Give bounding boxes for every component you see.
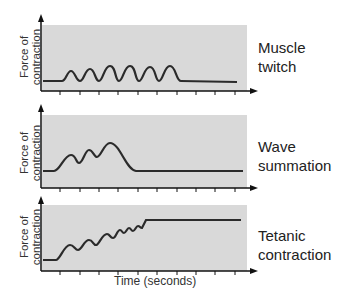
panel-wave-summation <box>38 104 258 192</box>
y-axis-label: Force of contraction <box>18 26 42 88</box>
y-axis-arrow-icon <box>38 14 44 22</box>
y-axis-label-line1: Force of <box>18 26 30 88</box>
y-axis-arrow-icon <box>38 196 44 204</box>
x-axis-arrow-icon <box>250 185 258 191</box>
y-axis-label: Force of contraction <box>18 206 42 268</box>
panel-label-line2: twitch <box>258 57 306 76</box>
panel-muscle-twitch <box>38 14 258 95</box>
panel-label-muscle-twitch: Muscle twitch <box>258 38 306 76</box>
y-axis-label-line1: Force of <box>18 206 30 268</box>
panel-label-line1: Wave <box>258 137 331 156</box>
y-axis-label-line1: Force of <box>18 122 30 184</box>
panel-label-wave-summation: Wave summation <box>258 137 331 175</box>
x-axis-arrow-icon <box>250 268 258 274</box>
y-axis-label-line2: contraction <box>30 26 42 88</box>
plot-background <box>42 115 247 188</box>
x-axis-arrow-icon <box>250 88 258 94</box>
y-axis-label-line2: contraction <box>30 206 42 268</box>
panel-label-tetanic-contraction: Tetanic contraction <box>258 226 331 264</box>
panel-tetanic-contraction <box>38 196 258 275</box>
plot-background <box>42 205 247 271</box>
y-axis-label: Force of contraction <box>18 122 42 184</box>
panel-label-line1: Muscle <box>258 38 306 57</box>
panel-label-line1: Tetanic <box>258 226 331 245</box>
y-axis-label-line2: contraction <box>30 122 42 184</box>
panel-label-line2: summation <box>258 156 331 175</box>
y-axis-arrow-icon <box>38 104 44 112</box>
panel-label-line2: contraction <box>258 245 331 264</box>
x-axis-label: Time (seconds) <box>114 274 196 288</box>
